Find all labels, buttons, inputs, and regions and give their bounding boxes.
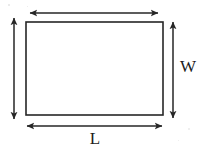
- length-label: L: [90, 129, 100, 147]
- rectangle-shape: [26, 22, 163, 115]
- width-label: W: [180, 57, 197, 76]
- rectangle-dimension-diagram: L W: [0, 0, 197, 147]
- diagram-canvas: L W: [0, 0, 197, 147]
